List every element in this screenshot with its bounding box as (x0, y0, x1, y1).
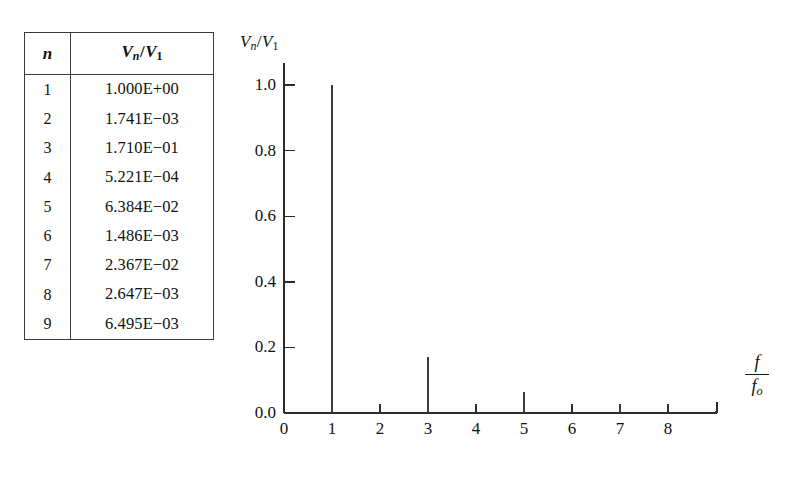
x-axis-tick-label: 4 (461, 420, 491, 437)
axes-group (284, 63, 717, 413)
cell-harmonic-number: 1 (25, 75, 71, 105)
harmonic-spectrum-chart: Vn/V1 f fo 0.00.20.40.60.81.0 012345678 (232, 18, 787, 458)
x-axis-tick-label: 8 (653, 420, 683, 437)
cell-harmonic-number: 6 (25, 221, 71, 250)
x-axis-tick-label: 7 (605, 420, 635, 437)
cell-harmonic-number: 7 (25, 251, 71, 280)
x-axis-tick-label: 5 (509, 420, 539, 437)
x-axis-tick-label: 0 (269, 420, 299, 437)
cell-amplitude-ratio: 1.710E−01 (70, 134, 213, 163)
table-row: 21.741E−03 (25, 104, 214, 133)
column-header-n: n (25, 33, 71, 75)
cell-harmonic-number: 3 (25, 134, 71, 163)
y-axis-tick-label: 0.8 (232, 142, 276, 159)
y-axis-tick-label: 0.6 (232, 207, 276, 224)
table-header: n Vn/V1 (25, 33, 214, 75)
cell-amplitude-ratio: 1.000E+00 (70, 75, 213, 105)
cell-amplitude-ratio: 5.221E−04 (70, 163, 213, 192)
cell-harmonic-number: 8 (25, 280, 71, 309)
tick-marks-group (284, 85, 668, 413)
table-row: 45.221E−04 (25, 163, 214, 192)
cell-amplitude-ratio: 2.647E−03 (70, 280, 213, 309)
x-axis-tick-label: 3 (413, 420, 443, 437)
harmonic-amplitude-table: n Vn/V1 11.000E+0021.741E−0331.710E−0145… (24, 32, 214, 340)
y-axis-tick-label: 0.0 (232, 404, 276, 421)
table-row: 56.384E−02 (25, 192, 214, 221)
table-body: 11.000E+0021.741E−0331.710E−0145.221E−04… (25, 75, 214, 340)
table-row: 61.486E−03 (25, 221, 214, 250)
cell-harmonic-number: 4 (25, 163, 71, 192)
y-axis-tick-label: 0.2 (232, 338, 276, 355)
table-row: 31.710E−01 (25, 134, 214, 163)
cell-amplitude-ratio: 6.384E−02 (70, 192, 213, 221)
v1-subscript: 1 (157, 50, 163, 64)
cell-amplitude-ratio: 1.741E−03 (70, 104, 213, 133)
column-header-vn-v1: Vn/V1 (70, 33, 213, 75)
y-axis-tick-label: 0.4 (232, 273, 276, 290)
cell-harmonic-number: 9 (25, 309, 71, 339)
y-axis-tick-label: 1.0 (232, 76, 276, 93)
cell-amplitude-ratio: 1.486E−03 (70, 221, 213, 250)
cell-amplitude-ratio: 6.495E−03 (70, 309, 213, 339)
cell-harmonic-number: 2 (25, 104, 71, 133)
data-spikes-group (332, 85, 716, 413)
x-axis-tick-label: 6 (557, 420, 587, 437)
x-axis-tick-label: 2 (365, 420, 395, 437)
v1-base: V (145, 42, 156, 61)
cell-amplitude-ratio: 2.367E−02 (70, 251, 213, 280)
table-row: 72.367E−02 (25, 251, 214, 280)
vn-base: V (121, 42, 132, 61)
cell-harmonic-number: 5 (25, 192, 71, 221)
table-row: 11.000E+00 (25, 75, 214, 105)
chart-plot-area (232, 18, 787, 458)
column-header-n-label: n (43, 44, 52, 63)
column-header-vn-v1-label: Vn/V1 (121, 42, 162, 61)
table-header-row: n Vn/V1 (25, 33, 214, 75)
table-row: 82.647E−03 (25, 280, 214, 309)
x-axis-tick-label: 1 (317, 420, 347, 437)
table-row: 96.495E−03 (25, 309, 214, 339)
